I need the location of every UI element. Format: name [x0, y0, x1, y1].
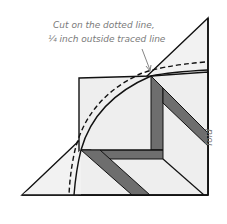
square-block — [79, 72, 208, 195]
lower-triangle-face — [22, 150, 81, 195]
pointer-line — [142, 49, 150, 70]
quilt-block-fold-diagram — [0, 0, 227, 224]
vertical-strip — [151, 76, 163, 150]
fold-label: fold — [204, 129, 215, 146]
